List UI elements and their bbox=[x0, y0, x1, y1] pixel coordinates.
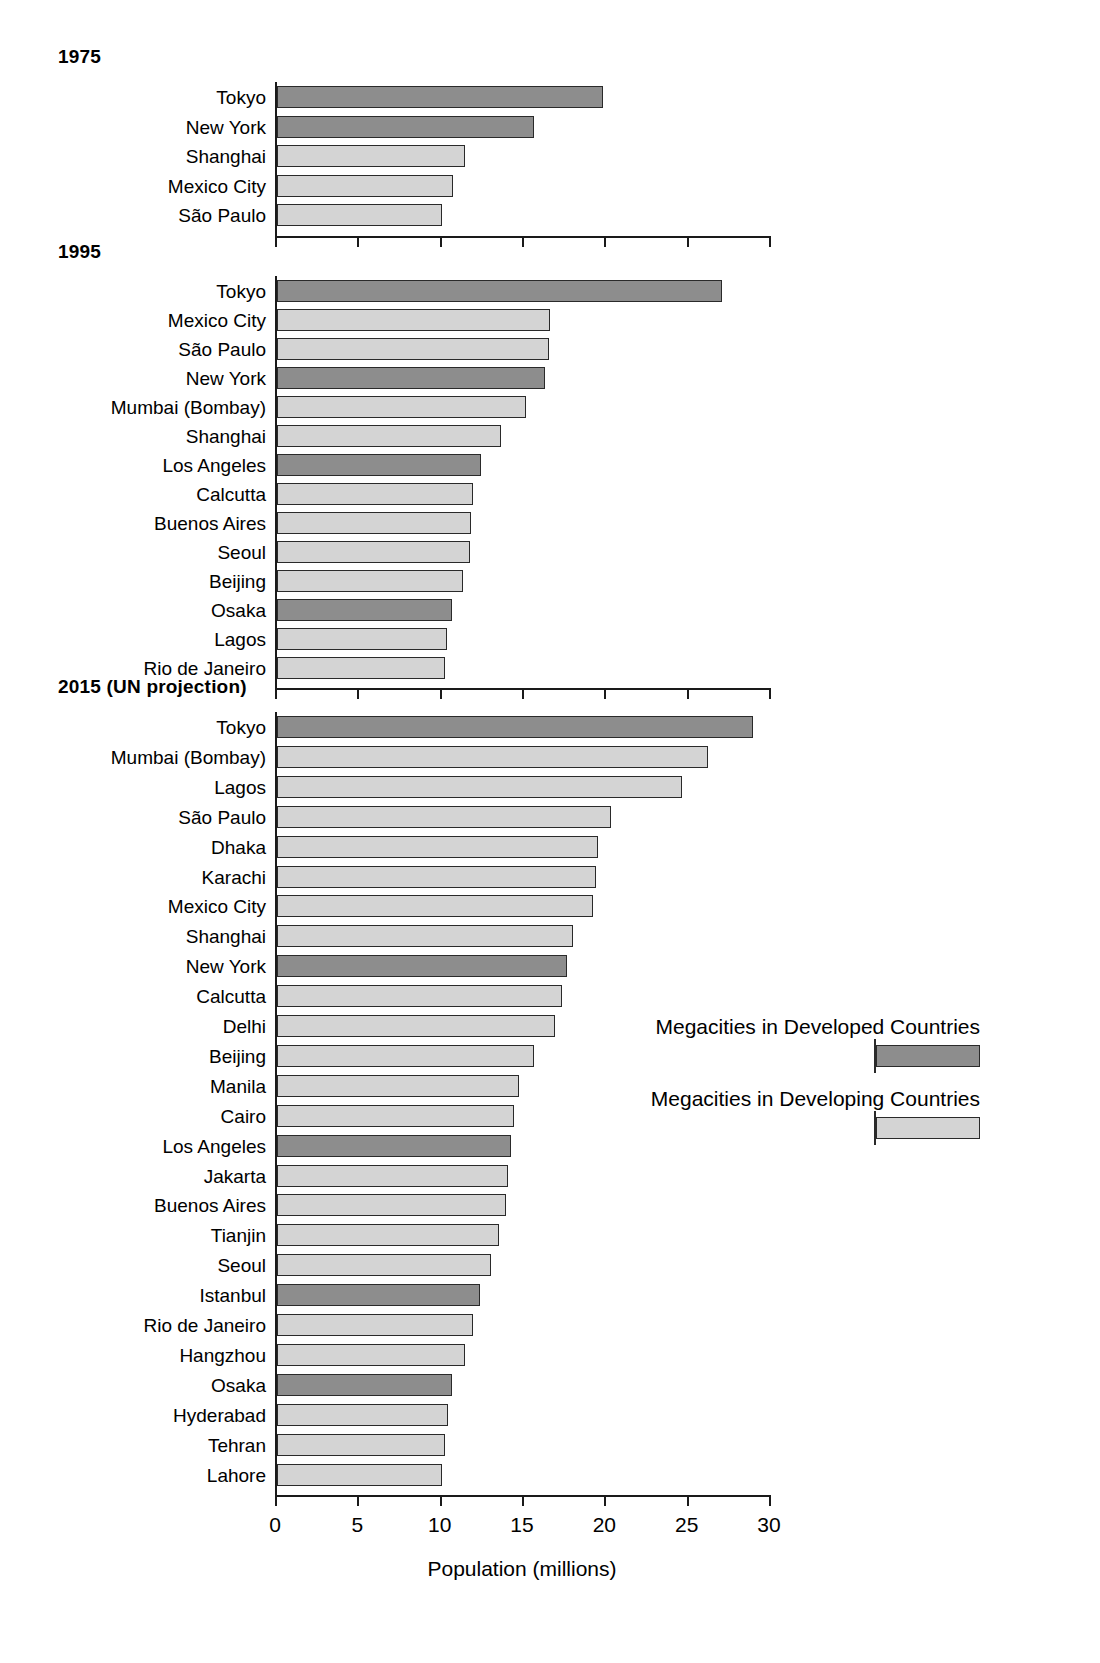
bar-row: Tokyo bbox=[275, 716, 769, 738]
x-tick-label: 0 bbox=[269, 1513, 281, 1537]
bar bbox=[277, 86, 603, 108]
bar-category-label: Seoul bbox=[217, 1256, 266, 1275]
bar-row: Beijing bbox=[275, 570, 769, 592]
x-tick-label: 30 bbox=[757, 1513, 780, 1537]
bar bbox=[277, 309, 550, 331]
panel-title-1975: 1975 bbox=[58, 46, 101, 68]
bar-category-label: Calcutta bbox=[196, 987, 266, 1006]
bar-row: Rio de Janeiro bbox=[275, 1314, 769, 1336]
bar-row: Shanghai bbox=[275, 145, 769, 167]
bar bbox=[277, 925, 573, 947]
bar-row: Lagos bbox=[275, 628, 769, 650]
bar bbox=[277, 483, 473, 505]
bar-row: Dhaka bbox=[275, 836, 769, 858]
bar-row: Karachi bbox=[275, 866, 769, 888]
bar-row: Mumbai (Bombay) bbox=[275, 746, 769, 768]
bar-category-label: Lagos bbox=[214, 630, 266, 649]
bar-category-label: Manila bbox=[210, 1076, 266, 1095]
bar-category-label: New York bbox=[186, 957, 266, 976]
bar bbox=[277, 396, 526, 418]
bar-category-label: Seoul bbox=[217, 543, 266, 562]
bar-row: Los Angeles bbox=[275, 454, 769, 476]
bar-category-label: Shanghai bbox=[186, 427, 266, 446]
x-axis-tick bbox=[522, 238, 524, 247]
bar-category-label: Mexico City bbox=[168, 311, 266, 330]
bar-category-label: Los Angeles bbox=[162, 456, 266, 475]
bar-row: Seoul bbox=[275, 541, 769, 563]
x-axis-tick bbox=[275, 238, 277, 247]
bar-row: Hyderabad bbox=[275, 1404, 769, 1426]
bar bbox=[277, 1105, 514, 1127]
bar bbox=[277, 367, 545, 389]
bar bbox=[277, 1015, 555, 1037]
bar-row: Mexico City bbox=[275, 309, 769, 331]
bar bbox=[277, 1254, 491, 1276]
bar bbox=[277, 425, 501, 447]
x-axis-title: Population (millions) bbox=[275, 1557, 769, 1581]
bar-row: Mumbai (Bombay) bbox=[275, 396, 769, 418]
bar bbox=[277, 895, 593, 917]
x-axis-tick bbox=[522, 1497, 524, 1506]
bar-category-label: Lagos bbox=[214, 777, 266, 796]
bar bbox=[277, 1075, 519, 1097]
bar-row: Calcutta bbox=[275, 985, 769, 1007]
bar-row: Jakarta bbox=[275, 1165, 769, 1187]
legend-entry-developing: Megacities in Developing Countries bbox=[620, 1087, 980, 1143]
bar-row: Mexico City bbox=[275, 895, 769, 917]
bar-category-label: Buenos Aires bbox=[154, 514, 266, 533]
bar bbox=[277, 599, 452, 621]
bar-row: New York bbox=[275, 116, 769, 138]
legend-swatch-developing bbox=[876, 1117, 980, 1139]
bar-row: Buenos Aires bbox=[275, 1194, 769, 1216]
bar bbox=[277, 657, 445, 679]
x-tick-label: 5 bbox=[351, 1513, 363, 1537]
bar-row: Lagos bbox=[275, 776, 769, 798]
bar-category-label: Lahore bbox=[207, 1465, 266, 1484]
x-axis-tick bbox=[357, 690, 359, 699]
chart-legend: Megacities in Developed Countries Megaci… bbox=[620, 1015, 980, 1145]
bar-category-label: Calcutta bbox=[196, 485, 266, 504]
bar-category-label: Rio de Janeiro bbox=[143, 659, 266, 678]
bar bbox=[277, 955, 567, 977]
bar-category-label: Mumbai (Bombay) bbox=[111, 747, 266, 766]
panel-title-2015: 2015 (UN projection) bbox=[58, 676, 247, 698]
bar bbox=[277, 806, 611, 828]
x-tick-label: 10 bbox=[428, 1513, 451, 1537]
bar-row: Rio de Janeiro bbox=[275, 657, 769, 679]
bar-category-label: Hyderabad bbox=[173, 1405, 266, 1424]
bar bbox=[277, 280, 722, 302]
bar bbox=[277, 1404, 448, 1426]
legend-swatch-developed bbox=[876, 1045, 980, 1067]
x-axis-tick bbox=[440, 238, 442, 247]
bar-category-label: Tokyo bbox=[216, 88, 266, 107]
bar-category-label: Mumbai (Bombay) bbox=[111, 398, 266, 417]
x-axis-tick bbox=[687, 238, 689, 247]
bar bbox=[277, 1374, 452, 1396]
x-axis-tick bbox=[604, 690, 606, 699]
bar-row: Shanghai bbox=[275, 425, 769, 447]
bar-category-label: Shanghai bbox=[186, 147, 266, 166]
bar bbox=[277, 866, 596, 888]
bar-row: Osaka bbox=[275, 1374, 769, 1396]
bar bbox=[277, 570, 463, 592]
bar-category-label: Rio de Janeiro bbox=[143, 1316, 266, 1335]
bar bbox=[277, 746, 708, 768]
bar bbox=[277, 512, 471, 534]
bar bbox=[277, 1344, 465, 1366]
bar-row: São Paulo bbox=[275, 338, 769, 360]
bar bbox=[277, 175, 453, 197]
x-axis-tick bbox=[357, 1497, 359, 1506]
bar-category-label: Shanghai bbox=[186, 927, 266, 946]
x-axis-tick bbox=[769, 1497, 771, 1506]
x-axis-tick bbox=[440, 690, 442, 699]
bar-category-label: Osaka bbox=[211, 601, 266, 620]
x-axis-tick bbox=[357, 238, 359, 247]
bar bbox=[277, 1224, 499, 1246]
bar-category-label: Cairo bbox=[221, 1106, 266, 1125]
bar-row: São Paulo bbox=[275, 806, 769, 828]
bar-row: Osaka bbox=[275, 599, 769, 621]
bar-row: Hangzhou bbox=[275, 1344, 769, 1366]
bar-category-label: New York bbox=[186, 117, 266, 136]
bar-category-label: Jakarta bbox=[204, 1166, 266, 1185]
x-axis-tick bbox=[604, 1497, 606, 1506]
